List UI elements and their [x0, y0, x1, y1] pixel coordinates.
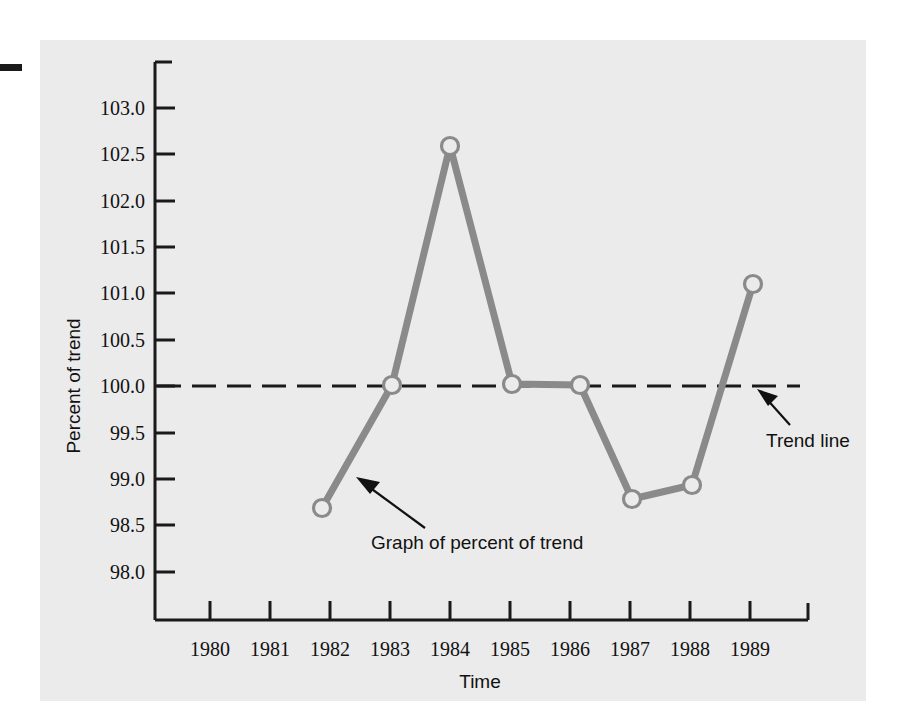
x-tick-label-8: 1988	[670, 638, 710, 660]
data-point-1989	[745, 276, 762, 293]
x-tick-label-6: 1986	[550, 638, 590, 660]
trend-annotation-label: Trend line	[766, 430, 850, 451]
data-point-1983	[384, 377, 401, 394]
x-tick-label-0: 1980	[190, 638, 230, 660]
data-point-1982	[314, 500, 331, 517]
y-tick-label-6: 100.0	[100, 375, 145, 397]
y-tick-label-4: 101.0	[100, 282, 145, 304]
y-tick-label-2: 102.0	[100, 190, 145, 212]
y-tick-label-0: 103.0	[100, 97, 145, 119]
x-axis-title: Time	[459, 671, 501, 692]
series-markers	[314, 138, 762, 517]
series-line-percent-of-trend	[322, 146, 753, 508]
y-tick-label-9: 98.5	[110, 514, 145, 536]
y-tick-label-8: 99.0	[110, 468, 145, 490]
x-tick-label-5: 1985	[490, 638, 530, 660]
y-tick-label-1: 102.5	[100, 143, 145, 165]
trend-annotation-arrowhead	[757, 389, 778, 406]
y-axis-title: Percent of trend	[63, 318, 84, 453]
y-axis-ticks	[155, 108, 175, 572]
data-point-1984	[442, 138, 459, 155]
y-tick-label-5: 100.5	[100, 329, 145, 351]
line-chart: 103.0 102.5 102.0 101.5 101.0 100.5 100.…	[0, 0, 908, 724]
x-axis-ticks	[210, 601, 750, 620]
data-point-1986	[572, 377, 589, 394]
data-point-1985	[504, 376, 521, 393]
x-tick-label-4: 1984	[430, 638, 470, 660]
x-tick-label-1: 1981	[250, 638, 290, 660]
series-annotation-label: Graph of percent of trend	[371, 532, 583, 553]
x-tick-label-7: 1987	[610, 638, 650, 660]
y-tick-label-10: 98.0	[110, 561, 145, 583]
series-annotation: Graph of percent of trend	[356, 477, 583, 553]
series-annotation-leader	[365, 484, 425, 528]
x-tick-label-9: 1989	[730, 638, 770, 660]
data-point-1987	[624, 491, 641, 508]
data-point-1988	[684, 477, 701, 494]
x-tick-label-2: 1982	[310, 638, 350, 660]
x-axis-tick-labels: 1980 1981 1982 1983 1984 1985 1986 1987 …	[190, 638, 770, 660]
y-tick-label-7: 99.5	[110, 422, 145, 444]
x-tick-label-3: 1983	[370, 638, 410, 660]
y-axis-tick-labels: 103.0 102.5 102.0 101.5 101.0 100.5 100.…	[100, 97, 145, 583]
y-tick-label-3: 101.5	[100, 236, 145, 258]
trend-annotation: Trend line	[757, 389, 850, 451]
figure-page: 103.0 102.5 102.0 101.5 101.0 100.5 100.…	[0, 0, 908, 724]
